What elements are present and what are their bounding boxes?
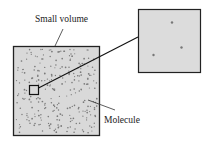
molecule-dot [44, 80, 45, 81]
molecule-dot [24, 72, 26, 74]
molecule-dot [31, 107, 33, 109]
molecule-dot [74, 53, 75, 54]
molecule-dot [26, 119, 27, 120]
molecule-dot [51, 102, 53, 104]
molecule-dot [96, 105, 98, 107]
molecule-dot [68, 66, 69, 67]
molecule-dot [82, 116, 83, 117]
molecule-dot [44, 104, 45, 105]
molecule-dot [28, 120, 29, 121]
molecule-dot [91, 126, 93, 128]
molecule-dot [38, 79, 40, 81]
molecule-dot [65, 81, 66, 82]
molecule-dot [33, 124, 35, 126]
molecule-dot [39, 98, 41, 100]
molecule-dot [24, 89, 26, 91]
molecule-dot [26, 115, 27, 116]
molecule-dot [72, 120, 73, 121]
molecule-dot [16, 102, 18, 104]
molecule-dot [27, 117, 28, 118]
molecule-dot [74, 105, 76, 107]
molecule-dot [93, 74, 94, 75]
molecule-dot [69, 107, 71, 109]
molecule-dot [49, 80, 50, 81]
molecule-dot [51, 79, 52, 80]
small-volume-label: Small volume [35, 14, 88, 24]
molecule-dot [50, 66, 51, 67]
molecule-dot [49, 128, 50, 129]
molecule-dot [70, 126, 71, 127]
molecule-dot [94, 108, 96, 110]
molecule-dot [60, 68, 61, 69]
molecule-dot [50, 98, 51, 99]
molecule-dot [26, 52, 27, 53]
molecule-dot [89, 87, 90, 88]
molecule-dot [55, 131, 57, 133]
molecule-dot [34, 123, 36, 125]
molecule-dot [63, 50, 65, 52]
molecule-dot [71, 94, 72, 95]
molecule-dot [58, 109, 59, 110]
molecule-dot [75, 92, 76, 93]
molecule-dot [37, 97, 39, 99]
molecule-dot [37, 70, 39, 72]
molecule-dot [86, 117, 87, 118]
molecule-dot [69, 55, 70, 56]
molecule-dot [26, 90, 27, 91]
molecule-dot [73, 88, 75, 90]
molecule-dot [94, 107, 95, 108]
molecule-dot [29, 99, 31, 101]
molecule-dot [71, 55, 73, 57]
molecule-dot [79, 90, 81, 92]
molecule-dot [58, 126, 59, 127]
molecule-dot [24, 92, 25, 93]
small-volume-leader-line [55, 29, 63, 46]
molecule-dot [40, 117, 41, 118]
molecule-dot [20, 107, 22, 109]
molecule-dot [87, 106, 89, 108]
molecule-dot [69, 115, 70, 116]
molecule-dot [19, 131, 21, 133]
molecule-dot [70, 89, 72, 91]
molecule-dot [61, 83, 63, 85]
molecule-dot [68, 74, 70, 76]
molecule-dot [78, 80, 79, 81]
molecule-dot [60, 51, 61, 52]
molecule-dot [57, 51, 59, 53]
molecule-dot [49, 56, 50, 57]
molecule-dot [80, 71, 82, 73]
molecule-dot [58, 103, 60, 105]
molecule-dot [74, 76, 75, 77]
molecule-dot [85, 111, 86, 112]
molecule-dot [59, 119, 61, 121]
molecule-dot [31, 54, 32, 55]
molecule-dot [94, 69, 96, 71]
molecule-dot [87, 65, 88, 66]
molecule-dot [38, 101, 40, 103]
molecule-dot [65, 66, 67, 68]
molecule-dot [81, 89, 82, 90]
molecule-dot [49, 50, 50, 51]
molecule-dot [53, 104, 55, 106]
molecule-dot [37, 56, 38, 57]
molecule-dot [48, 123, 49, 124]
molecule-dot [67, 108, 69, 110]
molecule-dot [26, 59, 27, 60]
molecule-dot [79, 75, 80, 76]
molecule-dot [87, 49, 88, 50]
molecule-dot [23, 99, 24, 100]
molecule-dot [52, 111, 54, 113]
molecule-dot [39, 62, 40, 63]
molecule-dot [90, 114, 91, 115]
molecule-dot [89, 125, 90, 126]
molecule-dot [34, 66, 36, 68]
molecule-dot [84, 100, 86, 102]
molecule-dot [42, 49, 43, 50]
molecule-dot [59, 113, 60, 114]
molecule-dot [62, 115, 63, 116]
molecule-dot [94, 87, 96, 89]
molecule-dot [49, 85, 50, 86]
molecule-dot [73, 73, 74, 74]
molecule-dot [29, 49, 31, 51]
molecule-dot [36, 80, 37, 81]
